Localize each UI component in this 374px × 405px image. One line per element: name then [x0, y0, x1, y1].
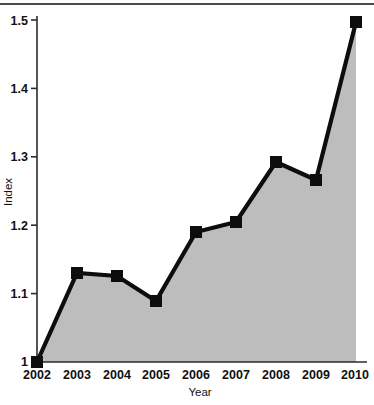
y-tick-label-3: 1.3: [11, 150, 28, 164]
data-point-2009: [310, 174, 322, 186]
x-tick-label-2010: 2010: [341, 368, 369, 382]
x-tick-label-2007: 2007: [222, 368, 250, 382]
data-point-2005: [150, 295, 162, 307]
y-tick-label-1: 1.1: [11, 287, 28, 301]
data-point-2004: [111, 270, 123, 282]
data-point-2008: [270, 156, 282, 168]
y-tick-label-5: 1.5: [11, 14, 28, 28]
data-point-2010: [350, 16, 362, 28]
data-point-2003: [71, 267, 83, 279]
y-tick-label-2: 1.2: [11, 219, 28, 233]
index-by-year-area-chart: 1 1.1 1.2 1.3 1.4 1.5 Index 2002 2003 20…: [0, 0, 374, 405]
chart-figure: 1 1.1 1.2 1.3 1.4 1.5 Index 2002 2003 20…: [0, 0, 374, 405]
x-tick-label-2004: 2004: [103, 368, 131, 382]
x-axis-title: Year: [188, 386, 211, 398]
y-tick-label-4: 1.4: [11, 82, 28, 96]
data-point-2002: [31, 356, 43, 368]
x-tick-label-2002: 2002: [23, 368, 51, 382]
data-point-2006: [190, 226, 202, 238]
x-tick-label-2006: 2006: [182, 368, 210, 382]
x-tick-label-2009: 2009: [302, 368, 330, 382]
y-tick-label-0: 1: [21, 355, 28, 369]
x-tick-label-2003: 2003: [63, 368, 91, 382]
x-tick-label-2008: 2008: [262, 368, 290, 382]
x-tick-label-2005: 2005: [142, 368, 170, 382]
y-axis-title: Index: [2, 178, 14, 206]
data-point-2007: [230, 216, 242, 228]
